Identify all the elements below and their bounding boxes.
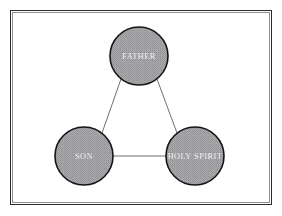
edge-layer <box>102 79 177 156</box>
figure-root: FATHER SON HOLY SPIRIT <box>0 0 282 216</box>
node-son-label: SON <box>75 152 93 161</box>
edge-father-son <box>102 79 121 133</box>
node-holy-spirit-label: HOLY SPIRIT <box>168 152 223 161</box>
edge-father-holy-spirit <box>157 79 177 133</box>
node-son[interactable]: SON <box>55 127 113 185</box>
node-father-label: FATHER <box>122 52 156 61</box>
node-holy-spirit[interactable]: HOLY SPIRIT <box>166 127 224 185</box>
node-father[interactable]: FATHER <box>110 27 168 85</box>
triangle-relationship-diagram: FATHER SON HOLY SPIRIT <box>0 0 282 216</box>
